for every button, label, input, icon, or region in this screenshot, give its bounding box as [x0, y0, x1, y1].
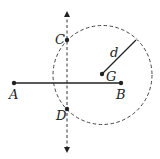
label-g: G — [106, 69, 116, 84]
label-radius-d: d — [110, 45, 118, 60]
label-b: B — [115, 87, 126, 102]
label-d: D — [55, 108, 67, 123]
point-b — [119, 81, 123, 85]
geometry-diagram: A B C D G d — [0, 0, 160, 159]
label-a: A — [8, 87, 18, 102]
point-g — [100, 72, 104, 76]
point-a — [12, 81, 16, 85]
point-c — [65, 38, 69, 42]
label-c: C — [55, 32, 65, 47]
